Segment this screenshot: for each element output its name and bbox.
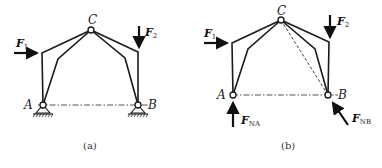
caption-b: (b) <box>281 140 295 151</box>
label-f1: F1 <box>203 27 216 41</box>
right-frame-outer <box>281 20 329 95</box>
label-b: B <box>337 88 347 102</box>
hinge-b <box>135 102 141 108</box>
label-c: C <box>88 13 97 27</box>
label-c: C <box>277 4 286 18</box>
hinge-a <box>230 92 236 98</box>
label-a: A <box>216 88 226 102</box>
label-b: B <box>147 98 157 112</box>
panel-b: C A B F1 F2 FNA FNB (b) <box>203 4 371 151</box>
hinge-c <box>88 27 94 33</box>
label-a: A <box>23 98 33 112</box>
label-f1: F1 <box>15 37 28 51</box>
three-hinged-arch-figure: C A B F1 F2 (a) C A B F1 <box>0 0 382 168</box>
reaction-fnb-arrow <box>333 103 348 125</box>
label-f2: F2 <box>144 26 157 40</box>
label-fnb: FNB <box>351 112 371 126</box>
label-f2: F2 <box>336 15 349 29</box>
left-frame-outer <box>42 30 91 105</box>
panel-a: C A B F1 F2 (a) <box>14 13 157 151</box>
label-fna: FNA <box>240 114 261 128</box>
left-frame-outer <box>232 20 281 95</box>
hinge-a <box>40 102 46 108</box>
hinge-b <box>325 92 331 98</box>
right-frame-outer <box>91 30 138 105</box>
caption-a: (a) <box>83 140 97 151</box>
